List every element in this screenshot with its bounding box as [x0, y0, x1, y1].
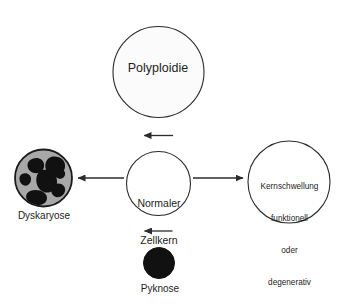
node-pyknose-circle[interactable]	[144, 248, 175, 279]
diagram-canvas	[0, 0, 339, 304]
node-dyskaryose-circle[interactable]	[15, 150, 72, 207]
cell-nucleus-changes-diagram: Polyploidie Normaler Zellkern Kernschwel…	[0, 0, 339, 304]
node-normaler-zellkern-circle[interactable]	[127, 152, 191, 216]
node-polyploidie-circle[interactable]	[113, 27, 204, 118]
node-kernschwellung-circle[interactable]	[248, 141, 330, 223]
